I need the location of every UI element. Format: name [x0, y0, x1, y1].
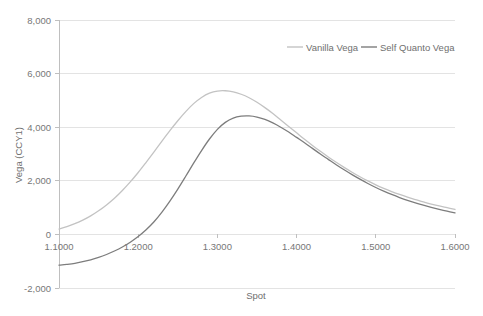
y-tick-label: 4,000	[27, 122, 51, 133]
x-tick-label: 1.5000	[361, 241, 390, 252]
y-tick-label: 8,000	[27, 15, 51, 26]
y-tick-label: 2,000	[27, 175, 51, 186]
vega-vs-spot-line-chart: 8,0006,0004,0002,0000-2,000 1.10001.2000…	[0, 0, 483, 316]
x-tick-label: 1.4000	[282, 241, 311, 252]
y-tick-label: -2,000	[24, 283, 51, 294]
legend-label-0: Vanilla Vega	[306, 42, 359, 53]
legend-label-1: Self Quanto Vega	[380, 42, 455, 53]
y-axis-title: Vega (CCY1)	[13, 127, 24, 183]
y-tick-label: 0	[46, 229, 51, 240]
x-tick-label: 1.3000	[203, 241, 232, 252]
chart-container: 8,0006,0004,0002,0000-2,000 1.10001.2000…	[0, 0, 483, 316]
y-tick-label: 6,000	[27, 68, 51, 79]
x-tick-label: 1.1000	[44, 241, 73, 252]
x-axis-title: Spot	[246, 290, 266, 301]
x-tick-label: 1.6000	[440, 241, 469, 252]
